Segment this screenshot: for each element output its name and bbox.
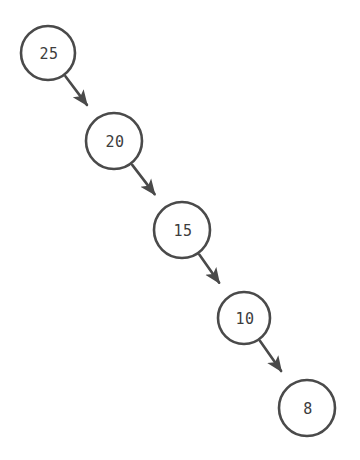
graph-node[interactable]: 15 (154, 202, 210, 258)
node-label: 8 (303, 400, 313, 418)
node-label: 10 (235, 310, 254, 328)
graph-edge (199, 255, 219, 283)
graph-edge (65, 76, 87, 105)
nodes-layer: 252015108 (21, 26, 335, 436)
diagram-canvas: 252015108 (0, 0, 360, 460)
graph-node[interactable]: 10 (218, 292, 270, 344)
node-label: 15 (173, 222, 192, 240)
graph-svg: 252015108 (0, 0, 360, 460)
graph-edge (260, 341, 281, 371)
graph-node[interactable]: 8 (279, 380, 335, 436)
node-label: 25 (39, 45, 58, 63)
node-label: 20 (105, 133, 124, 151)
graph-node[interactable]: 25 (21, 26, 75, 80)
graph-edge (132, 165, 154, 194)
graph-node[interactable]: 20 (86, 113, 142, 169)
